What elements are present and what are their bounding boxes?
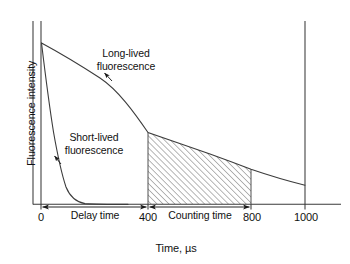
counting-window-shaded-region <box>148 133 251 205</box>
x-tick-label-1000: 1000 <box>288 211 324 224</box>
long-lived-fluorescence-label: Long-lived fluorescence <box>84 47 168 72</box>
x-axis-title: Time, µs <box>126 242 226 255</box>
counting-time-label: Counting time <box>156 209 244 222</box>
y-axis-title: Fluorescence intensity <box>25 33 38 193</box>
short-lived-leader-arrow <box>55 156 62 164</box>
long-lived-leader-arrow <box>105 73 113 81</box>
long-lived-label-line1: Long-lived <box>84 47 168 60</box>
x-tick-label-400: 400 <box>133 211 163 224</box>
long-lived-label-line2: fluorescence <box>84 60 168 73</box>
x-tick-label-0: 0 <box>33 211 49 224</box>
fluorescence-decay-figure: Fluorescence intensity Time, µs Long-liv… <box>0 0 350 264</box>
delay-time-label: Delay time <box>60 209 130 222</box>
x-tick-label-800: 800 <box>237 211 267 224</box>
short-lived-label-line1: Short-lived <box>50 131 138 144</box>
short-lived-fluorescence-label: Short-lived fluorescence <box>50 131 138 156</box>
short-lived-label-line2: fluorescence <box>50 144 138 157</box>
